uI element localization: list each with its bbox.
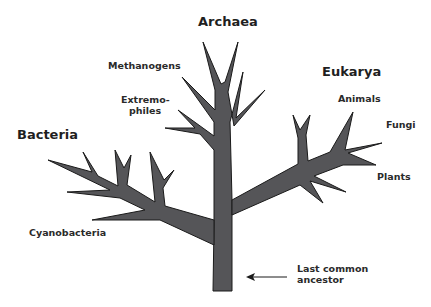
eukarya-branch — [232, 112, 382, 215]
label-archaea: Archaea — [198, 14, 258, 30]
label-extremophiles-line2: philes — [121, 105, 169, 116]
label-eukarya: Eukarya — [322, 64, 381, 80]
label-methanogens: Methanogens — [108, 60, 181, 71]
label-lca-line2: ancestor — [297, 274, 368, 285]
tree-of-life-diagram: Archaea Methanogens Extremo- philes Bact… — [0, 0, 431, 307]
label-bacteria: Bacteria — [17, 127, 78, 143]
label-lca-line1: Last common — [297, 263, 368, 274]
label-extremophiles-line1: Extremo- — [121, 94, 169, 105]
label-cyanobacteria: Cyanobacteria — [29, 227, 106, 238]
label-animals: Animals — [338, 93, 381, 104]
label-extremophiles: Extremo- philes — [121, 94, 169, 117]
tree-graphic — [0, 0, 431, 307]
lca-arrow — [246, 273, 287, 281]
label-fungi: Fungi — [386, 119, 416, 130]
label-plants: Plants — [377, 171, 411, 182]
trunk — [165, 42, 265, 291]
label-last-common-ancestor: Last common ancestor — [297, 263, 368, 286]
